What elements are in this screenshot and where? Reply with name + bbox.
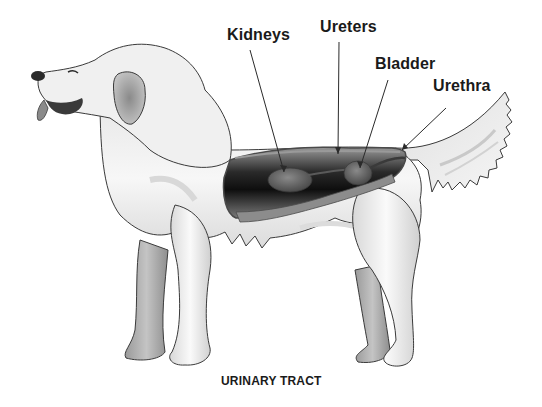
near-front-leg (170, 205, 211, 365)
dog-anatomy-illustration (0, 0, 542, 407)
label-ureters: Ureters (320, 18, 377, 36)
kidney-shape (268, 168, 312, 192)
ureters-leader-line (338, 42, 339, 154)
diagram-caption: URINARY TRACT (221, 374, 322, 388)
label-kidneys: Kidneys (227, 26, 290, 44)
label-bladder: Bladder (375, 55, 435, 73)
far-legs (125, 240, 390, 363)
label-urethra: Urethra (433, 77, 491, 95)
bladder-shape (344, 161, 372, 185)
